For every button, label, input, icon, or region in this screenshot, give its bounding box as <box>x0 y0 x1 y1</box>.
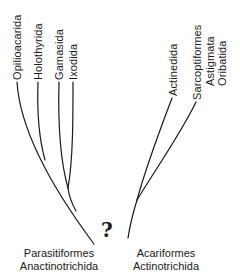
clade-label-parasitiformes: Parasitiformes Anactinotrichida <box>14 247 104 273</box>
branch-gamasida <box>59 82 68 188</box>
taxon-label-actinedida: Actinedida <box>167 44 179 96</box>
taxon-label-astigmata: Astigmata <box>204 36 216 86</box>
uncertain-relationship-marker: ? <box>101 220 113 240</box>
branch-sarcoptiformes <box>137 102 196 200</box>
branch-acariformes-root <box>128 200 137 238</box>
clade-altname-actinotrichida: Actinotrichida <box>124 260 208 273</box>
branch-actinedida <box>137 98 172 200</box>
taxon-label-gamasida: Gamasida <box>53 29 65 80</box>
clade-name-acariformes: Acariformes <box>124 247 208 260</box>
clade-name-parasitiformes: Parasitiformes <box>14 247 104 260</box>
branch-gamasida-ixodida-stem <box>68 188 76 211</box>
taxon-label-holothyrida: Holothyrida <box>32 23 44 80</box>
taxon-label-opilioacarida: Opilioacarida <box>11 14 23 80</box>
taxon-label-oribatida: Oribatida <box>216 40 228 86</box>
taxon-label-sarcoptiformes: Sarcoptiformes <box>191 25 203 100</box>
clade-altname-anactinotrichida: Anactinotrichida <box>14 260 104 273</box>
branch-opilioacarida <box>17 82 94 244</box>
taxon-label-ixodida: Ixodida <box>67 44 79 80</box>
branch-holothyrida <box>38 82 45 160</box>
clade-label-acariformes: Acariformes Actinotrichida <box>124 247 208 273</box>
branch-ixodida <box>68 82 73 188</box>
